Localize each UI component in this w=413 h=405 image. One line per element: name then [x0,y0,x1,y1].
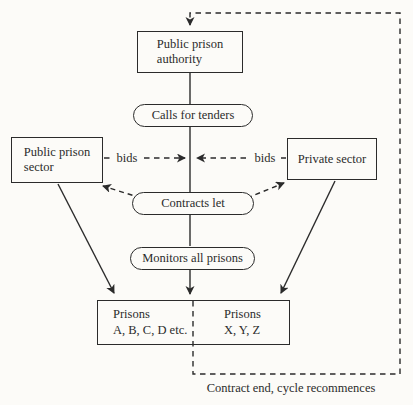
prisons-public-label-line2: A, B, C, D etc. [113,323,194,339]
bids-right-label: bids [249,151,281,165]
prisons-private-label-line1: Prisons [224,307,291,323]
node-public-prison-authority: Public prison authority [137,31,243,73]
cycle-caption: Contract end, cycle recommences [196,381,386,395]
node-calls-for-tenders: Calls for tenders [133,104,253,127]
prisons-private-cell: Prisons X, Y, Z [194,301,291,344]
node-monitors-all-prisons: Monitors all prisons [130,247,255,270]
public-prison-authority-label-line1: Public prison [157,37,223,52]
contracts-let-label: Contracts let [161,196,225,211]
bids-left-label: bids [112,151,142,165]
prisons-private-label-line2: X, Y, Z [224,323,291,339]
private-sector-to-prisons-arrow [281,181,335,293]
public-prison-sector-label-line1: Public prison [24,145,90,160]
calls-for-tenders-label: Calls for tenders [152,108,235,123]
public-prison-sector-label-line2: sector [24,160,90,175]
prisons-public-cell: Prisons A, B, C, D etc. [98,301,194,344]
prison-tendering-cycle-diagram: Public prison authority Calls for tender… [0,0,413,405]
monitors-all-prisons-label: Monitors all prisons [142,251,243,266]
node-prisons-box: Prisons A, B, C, D etc. Prisons X, Y, Z [97,300,290,345]
node-contracts-let: Contracts let [132,192,254,215]
prisons-public-label-line1: Prisons [113,307,194,323]
node-private-sector: Private sector [287,138,377,180]
node-public-prison-sector: Public prison sector [11,137,103,183]
public-sector-to-prisons-arrow [58,184,114,293]
contracts-to-private-sector-arrow [247,183,284,198]
public-prison-authority-label-line2: authority [157,52,223,67]
private-sector-label: Private sector [298,152,366,167]
